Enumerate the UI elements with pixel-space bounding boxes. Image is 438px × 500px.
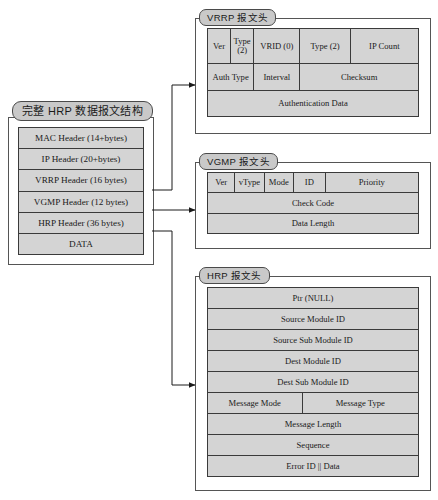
stack-row-label: MAC Header (14+bytes)	[35, 133, 127, 143]
hrp-field-table: Ptr (NULL)Source Module IDSource Sub Mod…	[207, 287, 419, 477]
vrrp-row: VerType (2)VRID (0)Type (2)IP Count	[208, 29, 418, 64]
hrp-title-label: HRP 报文头	[207, 270, 262, 281]
vgmp-field-label: Priority	[359, 178, 385, 187]
stack-row-label: DATA	[69, 239, 93, 249]
hrp-row: Dest Module ID	[208, 351, 418, 372]
vrrp-field: VRID (0)	[254, 29, 300, 63]
hrp-field: Ptr (NULL)	[208, 288, 418, 308]
vrrp-row: Authentication Data	[208, 91, 418, 116]
hrp-field-label: Source Module ID	[281, 315, 345, 324]
hrp-field: Sequence	[208, 435, 418, 455]
hrp-field-label: Message Length	[285, 420, 342, 429]
vgmp-field: Priority	[326, 173, 418, 192]
stack-title-label: 完整 HRP 数据报文结构	[22, 105, 143, 117]
vrrp-field: Auth Type	[208, 64, 254, 89]
stack-row: IP Header (20+bytes)	[18, 148, 144, 169]
vgmp-field: Data Length	[208, 214, 418, 233]
vgmp-field-label: Check Code	[292, 199, 334, 208]
stack-row: VRRP Header (16 bytes)	[18, 169, 144, 190]
hrp-row: Message Length	[208, 414, 418, 435]
vrrp-field-label: Checksum	[341, 73, 377, 82]
hrp-row: Source Module ID	[208, 309, 418, 330]
stack-row: HRP Header (36 bytes)	[18, 212, 144, 233]
packet-structure-rows: MAC Header (14+bytes)IP Header (20+bytes…	[18, 127, 144, 255]
hrp-field: Source Module ID	[208, 309, 418, 329]
vrrp-title-label: VRRP 报文头	[207, 12, 268, 23]
vgmp-row: Check Code	[208, 193, 418, 213]
vgmp-field-table: VervTypeModeIDPriorityCheck CodeData Len…	[207, 172, 419, 234]
hrp-field: Error ID || Data	[208, 456, 418, 476]
vgmp-field-label: vType	[239, 178, 260, 187]
vrrp-field: Type (2)	[300, 29, 350, 63]
vrrp-field-label: Authentication Data	[278, 99, 347, 108]
wire-hrp	[152, 231, 195, 385]
vrrp-field-label: Type (2)	[310, 42, 339, 51]
vrrp-field-label: VRID (0)	[260, 42, 293, 51]
vgmp-field: Mode	[265, 173, 294, 192]
hrp-row: Source Sub Module ID	[208, 330, 418, 351]
hrp-row: Ptr (NULL)	[208, 288, 418, 309]
hrp-field: Message Length	[208, 414, 418, 434]
hrp-row: Message ModeMessage Type	[208, 393, 418, 414]
hrp-row: Error ID || Data	[208, 456, 418, 476]
hrp-field: Message Type	[303, 393, 419, 413]
stack-row: MAC Header (14+bytes)	[18, 127, 144, 148]
vrrp-field: Checksum	[300, 64, 418, 89]
vrrp-field: Type (2)	[231, 29, 254, 63]
stack-row-label: HRP Header (36 bytes)	[38, 218, 124, 228]
vrrp-title-tab: VRRP 报文头	[199, 9, 276, 26]
vgmp-field-label: Data Length	[292, 219, 335, 228]
vgmp-row: Data Length	[208, 214, 418, 233]
stack-row-label: VGMP Header (12 bytes)	[34, 197, 128, 207]
vrrp-field-label: Type (2)	[234, 37, 251, 55]
vrrp-field-label: Auth Type	[212, 73, 248, 82]
hrp-row: Dest Sub Module ID	[208, 372, 418, 393]
vgmp-field: ID	[294, 173, 326, 192]
vrrp-field: Interval	[254, 64, 300, 89]
vgmp-field: Check Code	[208, 193, 418, 212]
hrp-field-label: Message Type	[336, 399, 385, 408]
hrp-field-label: Dest Module ID	[285, 357, 341, 366]
hrp-field-label: Sequence	[297, 441, 330, 450]
vrrp-field-label: Ver	[213, 42, 225, 51]
hrp-title-tab: HRP 报文头	[199, 267, 270, 284]
hrp-field-label: Dest Sub Module ID	[277, 378, 348, 387]
stack-row: DATA	[18, 233, 144, 255]
vgmp-field-label: ID	[305, 178, 314, 187]
vgmp-row: VervTypeModeIDPriority	[208, 173, 418, 193]
stack-row-label: IP Header (20+bytes)	[42, 154, 121, 164]
wire-vrrp	[152, 85, 195, 190]
vgmp-field-label: Mode	[269, 178, 289, 187]
stack-title-tab: 完整 HRP 数据报文结构	[12, 101, 153, 121]
hrp-field-label: Error ID || Data	[286, 462, 339, 471]
hrp-row: Sequence	[208, 435, 418, 456]
hrp-field-label: Message Mode	[229, 399, 281, 408]
stack-row-label: VRRP Header (16 bytes)	[35, 175, 127, 185]
vgmp-field-label: Ver	[215, 178, 227, 187]
vrrp-field: Authentication Data	[208, 91, 418, 116]
vrrp-field-label: Interval	[263, 73, 290, 82]
stack-row: VGMP Header (12 bytes)	[18, 191, 144, 212]
hrp-field: Dest Sub Module ID	[208, 372, 418, 392]
vrrp-row: Auth TypeIntervalChecksum	[208, 64, 418, 90]
hrp-field-label: Ptr (NULL)	[293, 294, 334, 303]
hrp-field: Dest Module ID	[208, 351, 418, 371]
vrrp-field-table: VerType (2)VRID (0)Type (2)IP CountAuth …	[207, 28, 419, 117]
vrrp-field: Ver	[208, 29, 231, 63]
hrp-field: Message Mode	[208, 393, 303, 413]
vrrp-field: IP Count	[351, 29, 418, 63]
vgmp-title-label: VGMP 报文头	[207, 156, 270, 167]
vgmp-field: vType	[235, 173, 264, 192]
vgmp-field: Ver	[208, 173, 235, 192]
hrp-field: Source Sub Module ID	[208, 330, 418, 350]
hrp-field-label: Source Sub Module ID	[273, 336, 352, 345]
packet-structure-box: MAC Header (14+bytes)IP Header (20+bytes…	[8, 117, 154, 265]
vgmp-title-tab: VGMP 报文头	[199, 153, 278, 170]
vrrp-field-label: IP Count	[369, 42, 399, 51]
